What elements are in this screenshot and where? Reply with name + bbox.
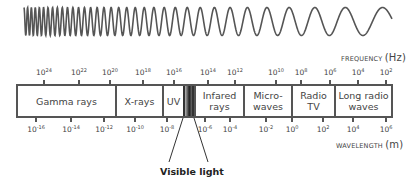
em-spectrum-diagram: FREQUENCY (Hz) 1024102210201018101610141… [0, 0, 411, 189]
visible-light-pointer-lines [0, 0, 411, 189]
visible-light-label: Visible light [160, 166, 224, 177]
